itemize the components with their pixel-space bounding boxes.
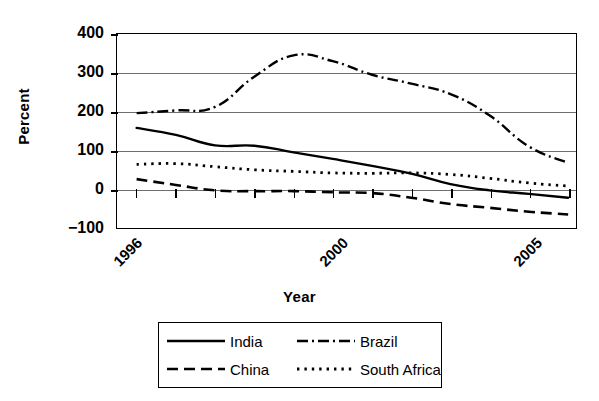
y-tick-label-300: 300	[40, 64, 104, 80]
line-chart-figure: Percent 400 300 200 100 0 −100 1996	[0, 0, 599, 401]
series-line-india	[137, 128, 569, 198]
series-line-brazil	[137, 54, 569, 163]
legend-label-brazil: Brazil	[360, 333, 398, 350]
legend-label-china: China	[230, 361, 269, 378]
plot-area	[116, 33, 577, 229]
legend-swatch-brazil	[295, 334, 357, 348]
legend-label-india: India	[230, 333, 263, 350]
y-tick-label-200: 200	[40, 103, 104, 119]
legend-row-1: India Brazil	[165, 327, 435, 355]
legend-swatch-india	[165, 334, 227, 348]
legend-label-south-africa: South Africa	[360, 361, 441, 378]
chart-legend: India Brazil China South Africa	[158, 322, 442, 388]
legend-entry-south-africa: South Africa	[295, 355, 435, 383]
legend-swatch-china	[165, 362, 227, 376]
y-tick-label-100: 100	[40, 142, 104, 158]
legend-entry-china: China	[165, 355, 295, 383]
legend-entry-brazil: Brazil	[295, 327, 435, 355]
series-line-china	[137, 179, 569, 214]
y-axis-title: Percent	[15, 72, 32, 162]
x-tick-label-1996: 1996	[110, 234, 146, 270]
legend-entry-india: India	[165, 327, 295, 355]
y-tick-label-group: 400 300 200 100 0 −100	[34, 0, 104, 260]
x-axis-title: Year	[0, 288, 599, 305]
series-layer	[117, 34, 576, 228]
series-line-south-africa	[137, 163, 569, 186]
y-tick-label-n100: −100	[40, 220, 104, 236]
legend-swatch-south-africa	[295, 362, 357, 376]
legend-row-2: China South Africa	[165, 355, 435, 383]
x-tick-label-2005: 2005	[510, 234, 546, 270]
y-tick-label-400: 400	[40, 25, 104, 41]
y-tick-label-0: 0	[40, 181, 104, 197]
x-tick-label-2000: 2000	[316, 234, 352, 270]
